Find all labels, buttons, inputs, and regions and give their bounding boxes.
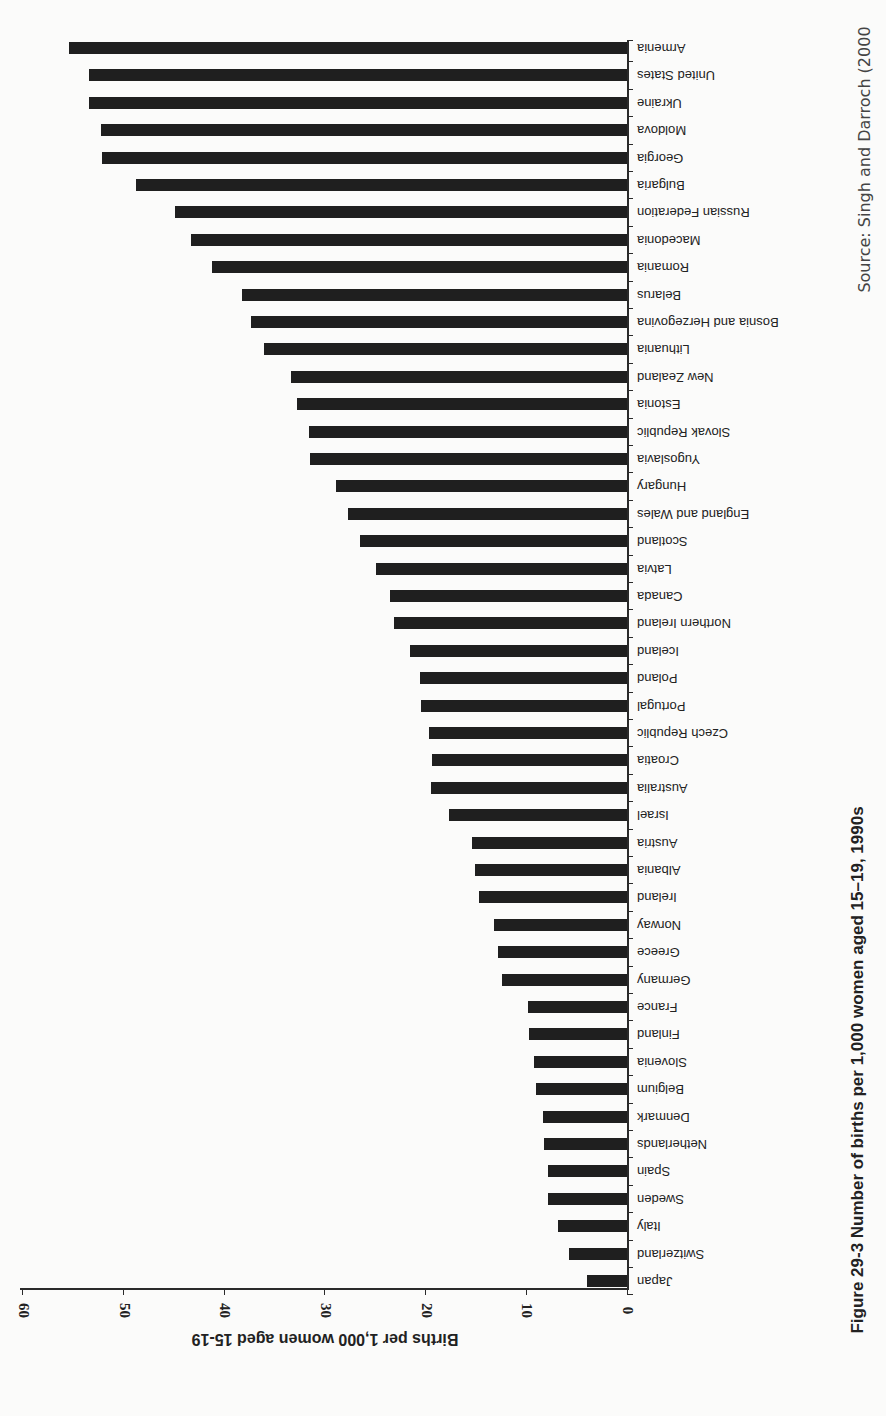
bar — [175, 206, 627, 218]
bar — [212, 261, 627, 273]
category-label: Norway — [637, 918, 681, 932]
category-label: Belarus — [637, 288, 681, 302]
x-tick-label: 20 — [417, 1299, 434, 1323]
bar — [548, 1165, 627, 1177]
category-tick — [628, 1267, 633, 1268]
bar — [558, 1220, 627, 1232]
category-label: Israel — [637, 808, 669, 822]
bar — [494, 919, 627, 931]
bar — [310, 453, 627, 465]
category-label: Lithuania — [637, 342, 690, 356]
category-label: Albania — [637, 863, 680, 877]
category-label: Yugoslavia — [637, 452, 700, 466]
category-tick — [628, 527, 633, 528]
x-tick — [22, 1289, 23, 1295]
category-label: Switzerland — [637, 1247, 704, 1261]
bar — [420, 672, 627, 684]
x-tick-label: 10 — [518, 1299, 535, 1323]
bar — [69, 42, 627, 54]
x-axis-title: Births per 1,000 women aged 15-19 — [160, 1330, 490, 1348]
category-tick — [628, 582, 633, 583]
category-label: Italy — [637, 1219, 661, 1233]
bar — [528, 1001, 627, 1013]
x-tick — [324, 1289, 325, 1295]
category-label: Scotland — [637, 534, 688, 548]
x-tick-label: 40 — [216, 1299, 233, 1323]
category-label: Finland — [637, 1027, 680, 1041]
category-label: Russian Federation — [637, 205, 750, 219]
category-tick — [628, 1020, 633, 1021]
category-tick — [628, 171, 633, 172]
bar — [348, 508, 627, 520]
category-tick — [628, 1103, 633, 1104]
bar — [472, 837, 627, 849]
category-tick — [628, 281, 633, 282]
bar — [479, 891, 627, 903]
bar — [309, 426, 627, 438]
bar — [534, 1056, 627, 1068]
x-tick — [224, 1289, 225, 1295]
bar — [136, 179, 627, 191]
category-tick — [628, 801, 633, 802]
category-tick — [628, 61, 633, 62]
category-label: Bosnia and Herzegovina — [637, 315, 779, 329]
bar — [432, 754, 627, 766]
category-label: Estonia — [637, 397, 680, 411]
x-tick — [425, 1289, 426, 1295]
category-label: Denmark — [637, 1110, 690, 1124]
category-tick — [628, 1157, 633, 1158]
bar — [410, 645, 627, 657]
category-label: Poland — [637, 671, 677, 685]
bar — [449, 809, 627, 821]
category-label: Canada — [637, 589, 683, 603]
category-label: Netherlands — [637, 1137, 707, 1151]
category-tick — [628, 1294, 633, 1295]
bar — [191, 234, 627, 246]
category-tick — [628, 692, 633, 693]
category-tick — [628, 664, 633, 665]
x-tick — [123, 1289, 124, 1295]
category-tick — [628, 829, 633, 830]
category-label: Australia — [637, 781, 688, 795]
category-label: Latvia — [637, 562, 672, 576]
category-label: Georgia — [637, 151, 683, 165]
category-label: Austria — [637, 836, 677, 850]
category-tick — [628, 746, 633, 747]
category-label: Slovenia — [637, 1055, 687, 1069]
category-label: Macedonia — [637, 233, 701, 247]
bar — [89, 69, 627, 81]
category-tick — [628, 966, 633, 967]
category-tick — [628, 911, 633, 912]
bar — [475, 864, 627, 876]
bar — [544, 1138, 627, 1150]
category-tick — [628, 719, 633, 720]
bar — [102, 152, 627, 164]
bar — [421, 700, 627, 712]
category-tick — [628, 1075, 633, 1076]
bar — [376, 563, 627, 575]
bar — [498, 946, 627, 958]
bar — [242, 289, 627, 301]
category-label: United States — [637, 68, 715, 82]
figure-caption: Figure 29-3 Number of births per 1,000 w… — [848, 720, 868, 1416]
category-tick — [628, 1185, 633, 1186]
category-tick — [628, 555, 633, 556]
bar — [390, 590, 627, 602]
bar — [569, 1248, 627, 1260]
category-tick — [628, 1240, 633, 1241]
category-label: Czech Republic — [637, 726, 728, 740]
category-label: England and Wales — [637, 507, 749, 521]
category-tick — [628, 89, 633, 90]
category-label: Ukraine — [637, 96, 682, 110]
category-tick — [628, 40, 633, 41]
source-note: Source: Singh and Darroch (2000 — [855, 0, 874, 320]
bar — [264, 343, 627, 355]
category-label: France — [637, 1000, 677, 1014]
category-tick — [628, 226, 633, 227]
bar — [360, 535, 627, 547]
category-tick — [628, 1130, 633, 1131]
category-tick — [628, 883, 633, 884]
category-tick — [628, 1048, 633, 1049]
bar — [251, 316, 627, 328]
x-tick-label: 50 — [115, 1299, 132, 1323]
